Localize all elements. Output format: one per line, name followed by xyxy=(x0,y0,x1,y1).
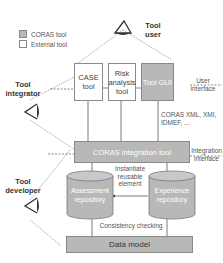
user-interface-label: User interface xyxy=(186,77,220,92)
eye-icon-developer xyxy=(25,198,39,213)
tool-gui-box[interactable]: Tool GUI xyxy=(141,63,174,101)
actor-tool-integrator: Tool integrator xyxy=(3,80,43,98)
assessment-repository[interactable]: Assessment repository xyxy=(66,170,114,220)
risk-analysis-tool-box[interactable]: Risk analysis tool xyxy=(108,63,136,101)
actor-tool-user: Tool user xyxy=(141,21,165,39)
case-tool-box[interactable]: CASE tool xyxy=(74,63,103,101)
instantiate-label: Instantiate reusable element xyxy=(112,165,148,188)
data-model-box[interactable]: Data model xyxy=(66,236,193,253)
experience-repository[interactable]: Experience repository xyxy=(148,170,196,220)
eye-icon-integrator xyxy=(25,104,39,119)
coras-integration-tool-box[interactable]: CORAS integration tool xyxy=(74,141,190,163)
eye-icon-user xyxy=(115,21,131,35)
actor-tool-developer: Tool developer xyxy=(3,177,43,195)
integration-interface-label: Integration interface xyxy=(190,147,223,162)
consistency-checking-label: Consistency checking xyxy=(96,222,166,230)
formats-label: CORAS XML, XMI, IDMEF, ... xyxy=(161,111,223,126)
